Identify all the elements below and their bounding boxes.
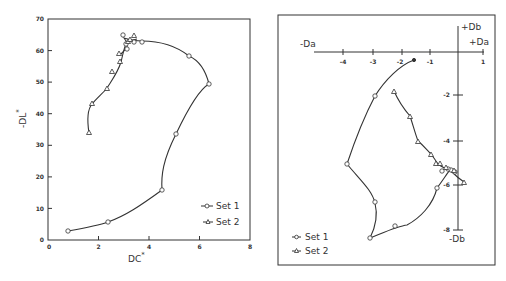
x-tick-8: 8 bbox=[248, 243, 252, 250]
db-tick--8: -8 bbox=[443, 226, 450, 233]
db-tick--6: -6 bbox=[443, 181, 450, 188]
pos-db-label: +Db bbox=[461, 22, 481, 32]
db-tick--4: -4 bbox=[443, 137, 450, 144]
db-tick--2: -2 bbox=[443, 91, 450, 98]
y-axis-label: -DL* bbox=[15, 109, 28, 128]
neg-da-label: -Da bbox=[300, 39, 316, 49]
left-x-ticks bbox=[99, 236, 200, 240]
legend-set2: Set 2 bbox=[305, 246, 328, 256]
da-tick-1: 1 bbox=[481, 58, 485, 65]
da-tick--3: -3 bbox=[370, 58, 377, 65]
right-set2-markers bbox=[392, 89, 467, 185]
left-legend: Set 1 Set 2 bbox=[201, 201, 239, 227]
y-tick-10: 10 bbox=[36, 205, 44, 212]
pos-da-label: +Da bbox=[469, 37, 489, 47]
y-tick-0: 0 bbox=[40, 236, 44, 243]
y-tick-40: 40 bbox=[36, 110, 44, 117]
legend-set2: Set 2 bbox=[216, 217, 239, 227]
x-tick-2: 2 bbox=[96, 243, 100, 250]
y-tick-60: 60 bbox=[36, 47, 44, 54]
right-set1-curve bbox=[347, 60, 450, 238]
neg-db-label: -Db bbox=[449, 234, 465, 244]
da-tick--2: -2 bbox=[397, 58, 404, 65]
y-tick-20: 20 bbox=[36, 173, 44, 180]
y-tick-30: 30 bbox=[36, 141, 44, 148]
left-chart: 0 10 20 30 40 50 60 70 0 2 4 6 8 DC* -DL… bbox=[15, 15, 252, 264]
legend-set1: Set 1 bbox=[305, 232, 328, 242]
right-legend: Set 1 Set 2 bbox=[292, 232, 328, 256]
da-tick--1: -1 bbox=[427, 58, 434, 65]
left-set2-curve bbox=[88, 39, 137, 133]
legend-set1: Set 1 bbox=[216, 201, 239, 211]
da-tick--4: -4 bbox=[340, 58, 347, 65]
x-axis-label: DC* bbox=[128, 251, 145, 264]
right-set1-markers bbox=[345, 58, 457, 240]
left-y-ticks bbox=[48, 51, 52, 209]
x-tick-0: 0 bbox=[47, 243, 51, 250]
y-tick-50: 50 bbox=[36, 78, 44, 85]
y-tick-70: 70 bbox=[36, 15, 44, 22]
right-chart: -4 -3 -2 -1 1 -2 -4 -6 -8 -Da +Da +Db -D… bbox=[278, 15, 495, 265]
figure: 0 10 20 30 40 50 60 70 0 2 4 6 8 DC* -DL… bbox=[0, 0, 506, 281]
x-tick-4: 4 bbox=[147, 243, 151, 250]
x-tick-6: 6 bbox=[197, 243, 201, 250]
